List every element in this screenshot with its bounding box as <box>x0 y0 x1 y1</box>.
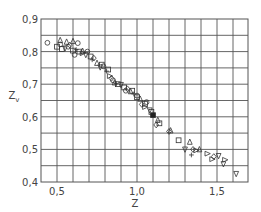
marker-diamond-icon <box>154 122 159 128</box>
scatter-chart: 0,51,01,5 0,40,50,60,70,80,9 Z Zv <box>0 0 261 212</box>
y-axis-label: Zv <box>8 90 19 104</box>
marker-circle-icon <box>45 40 50 45</box>
marker-triangle-up-icon <box>187 139 192 144</box>
marker-plus-icon <box>189 153 194 158</box>
marker-circle-icon <box>123 88 128 93</box>
y-tick-label: 0,4 <box>22 177 38 188</box>
marker-triangle-right-icon <box>205 151 210 156</box>
y-axis-label-subscript: v <box>15 96 19 104</box>
marker-filled-square-icon <box>151 113 156 118</box>
data-points <box>45 37 239 176</box>
y-tick-label: 0,5 <box>22 144 38 155</box>
y-tick-label: 0,7 <box>22 79 38 90</box>
x-tick-label: 0,5 <box>49 186 65 197</box>
y-tick-label: 0,6 <box>22 112 38 123</box>
x-axis-label: Z <box>132 198 139 209</box>
y-tick-label: 0,9 <box>22 14 38 25</box>
x-tick-label: 1,5 <box>209 186 225 197</box>
marker-circle-icon <box>75 41 80 46</box>
marker-triangle-down-icon <box>234 171 239 176</box>
x-tick-label: 1,0 <box>129 186 145 197</box>
marker-square-icon <box>176 138 181 143</box>
y-axis-ticks: 0,40,50,60,70,80,9 <box>22 14 38 188</box>
marker-triangle-down-icon <box>221 162 226 167</box>
x-axis-ticks: 0,51,01,5 <box>49 186 225 197</box>
y-tick-label: 0,8 <box>22 47 38 58</box>
